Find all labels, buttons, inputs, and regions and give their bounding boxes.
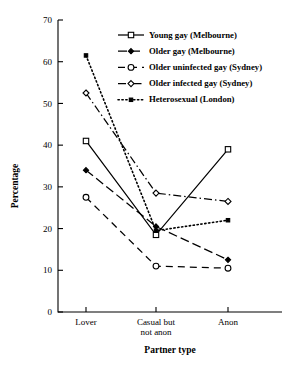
data-point-marker <box>225 257 230 262</box>
y-tick-label: 10 <box>43 265 53 275</box>
y-tick-label: 50 <box>43 99 53 109</box>
y-tick-label: 20 <box>43 224 53 234</box>
data-point-marker <box>129 98 132 101</box>
y-tick-label: 30 <box>43 182 53 192</box>
x-tick-label: Anon <box>218 317 238 327</box>
y-axis-ticks: 010203040506070 <box>43 15 63 317</box>
data-point-marker <box>154 229 157 232</box>
legend-item[interactable]: Young gay (Melbourne) <box>118 30 237 40</box>
data-point-marker <box>83 194 89 200</box>
x-tick-label: Casual but <box>137 317 176 327</box>
data-point-marker <box>226 219 229 222</box>
legend-label: Heterosexual (London) <box>149 94 235 104</box>
data-point-marker <box>225 265 231 271</box>
legend-item[interactable]: Older uninfected gay (Sydney) <box>118 62 262 72</box>
data-point-marker <box>153 263 159 269</box>
legend-label: Young gay (Melbourne) <box>149 30 237 40</box>
legend-label: Older gay (Melbourne) <box>149 46 235 56</box>
line-chart-svg: 010203040506070 LoverCasual butnot anonA… <box>0 0 292 373</box>
data-point-marker <box>128 65 134 71</box>
legend-item[interactable]: Older infected gay (Sydney) <box>118 78 252 88</box>
legend-label: Older infected gay (Sydney) <box>149 78 252 88</box>
data-point-marker <box>128 32 133 37</box>
y-tick-label: 60 <box>43 57 53 67</box>
legend-item[interactable]: Heterosexual (London) <box>118 94 235 104</box>
x-tick-label: not anon <box>140 327 172 337</box>
x-tick-label: Lover <box>75 317 97 327</box>
data-point-marker <box>83 138 88 143</box>
data-point-marker <box>225 198 231 204</box>
x-axis-title: Partner type <box>144 345 195 355</box>
data-point-marker <box>225 147 230 152</box>
y-tick-label: 40 <box>43 140 53 150</box>
data-point-marker <box>84 54 87 57</box>
data-point-marker <box>153 232 158 237</box>
data-series <box>83 168 230 263</box>
y-tick-label: 0 <box>48 307 53 317</box>
data-point-marker <box>128 81 134 87</box>
chart-legend: Young gay (Melbourne)Older gay (Melbourn… <box>118 30 262 105</box>
y-tick-label: 70 <box>43 15 53 25</box>
series-line <box>86 170 228 260</box>
data-series <box>83 90 231 204</box>
legend-item[interactable]: Older gay (Melbourne) <box>118 46 235 56</box>
legend-label: Older uninfected gay (Sydney) <box>149 62 262 72</box>
data-point-marker <box>128 49 133 54</box>
y-axis-title: Percentage <box>10 164 20 209</box>
chart-figure: 010203040506070 LoverCasual butnot anonA… <box>0 0 292 373</box>
data-point-marker <box>153 190 159 196</box>
